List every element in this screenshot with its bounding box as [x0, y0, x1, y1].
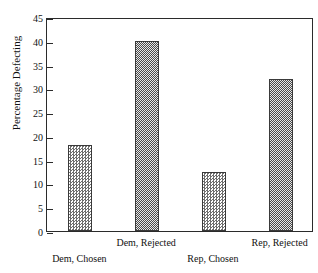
y-tick-mark: [47, 19, 53, 20]
y-tick-mark: [47, 162, 53, 163]
bar: [269, 79, 293, 231]
y-tick-label: 10: [33, 180, 43, 190]
y-tick-mark: [47, 209, 53, 210]
y-tick-mark: [47, 185, 53, 186]
y-tick-label: 35: [33, 62, 43, 72]
x-axis-label: Rep, Rejected: [252, 238, 308, 248]
y-tick-label: 25: [33, 109, 43, 119]
y-tick-label: 5: [38, 204, 43, 214]
bar: [135, 41, 159, 231]
x-axis-label: Dem, Chosen: [52, 254, 106, 264]
x-axis-label: Rep, Chosen: [187, 254, 238, 264]
plot-area: 051015202530354045: [46, 18, 313, 232]
y-tick-mark: [47, 233, 53, 234]
y-tick-label: 20: [33, 133, 43, 143]
x-axis-label: Dem, Rejected: [116, 238, 175, 248]
y-tick-mark: [47, 114, 53, 115]
bar: [68, 145, 92, 231]
y-tick-label: 15: [33, 157, 43, 167]
chart-title: National Election Studies: [0, 0, 318, 2]
y-tick-mark: [47, 43, 53, 44]
y-tick-label: 45: [33, 14, 43, 24]
y-tick-mark: [47, 90, 53, 91]
y-tick-mark: [47, 67, 53, 68]
y-tick-label: 40: [33, 38, 43, 48]
y-tick-mark: [47, 138, 53, 139]
y-axis-title: Percentage Defecting: [10, 13, 22, 153]
bar-chart: National Election Studies Percentage Def…: [0, 0, 318, 273]
y-tick-label: 0: [38, 228, 43, 238]
y-tick-label: 30: [33, 85, 43, 95]
bar: [202, 172, 226, 231]
